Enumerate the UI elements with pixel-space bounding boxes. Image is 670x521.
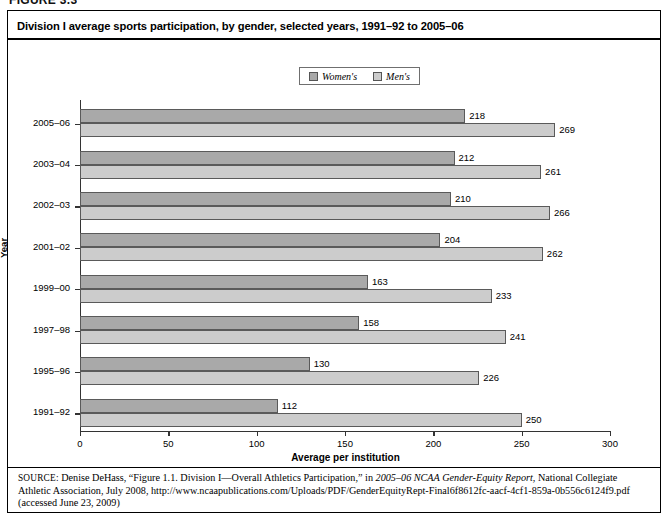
x-axis-tick-mark — [80, 431, 81, 436]
y-axis-tick-mark — [75, 331, 80, 332]
chart-legend: Women's Men's — [299, 67, 420, 85]
legend-item-womens: Women's — [309, 71, 357, 82]
y-axis-tick-mark — [75, 372, 80, 373]
bar-mens — [80, 330, 506, 344]
bar-value-label: 226 — [483, 371, 499, 385]
legend-swatch-icon-womens — [309, 72, 318, 81]
bar-womens — [80, 399, 278, 413]
x-axis-tick-label: 150 — [337, 438, 353, 449]
legend-item-mens: Men's — [373, 71, 410, 82]
bar-mens — [80, 165, 541, 179]
bar-value-label: 130 — [314, 357, 330, 371]
bar-group: 212261 — [80, 141, 610, 182]
bar-mens — [80, 123, 555, 137]
bar-value-label: 204 — [444, 233, 460, 247]
bar-womens — [80, 151, 455, 165]
legend-swatch-icon-mens — [373, 72, 382, 81]
legend-label-womens: Women's — [322, 71, 357, 82]
bar-group: 204262 — [80, 224, 610, 265]
y-axis-tick-label: 2003–04 — [0, 158, 70, 169]
bar-group: 158241 — [80, 307, 610, 348]
x-axis-tick-mark — [610, 431, 611, 436]
bar-mens — [80, 206, 550, 220]
x-axis-tick-mark — [433, 431, 434, 436]
y-axis-tick-mark — [75, 124, 80, 125]
bar-value-label: 210 — [455, 192, 471, 206]
x-axis-tick-label: 100 — [249, 438, 265, 449]
y-axis-tick-label: 2005–06 — [0, 117, 70, 128]
x-axis-tick-label: 300 — [602, 438, 618, 449]
source-divider — [8, 467, 660, 468]
bar-value-label: 262 — [547, 247, 563, 261]
bar-group: 130226 — [80, 348, 610, 389]
source-report-title: 2005–06 NCAA Gender-Equity Report — [376, 472, 533, 483]
bar-womens — [80, 275, 368, 289]
bar-value-label: 250 — [526, 413, 542, 427]
x-axis-tick-mark — [522, 431, 523, 436]
bar-group: 210266 — [80, 183, 610, 224]
y-axis-tick-mark — [75, 248, 80, 249]
bar-group: 218269 — [80, 100, 610, 141]
figure-number-label: FIGURE 3.3 — [9, 0, 77, 5]
chart-title: Division I average sports participation,… — [17, 20, 637, 32]
y-axis-tick-label: 1997–98 — [0, 324, 70, 335]
bar-value-label: 261 — [545, 165, 561, 179]
bar-group: 112250 — [80, 390, 610, 431]
bar-value-label: 158 — [363, 316, 379, 330]
x-axis-tick-mark — [257, 431, 258, 436]
x-axis-tick-label: 200 — [425, 438, 441, 449]
bar-womens — [80, 357, 310, 371]
x-axis-tick-mark — [345, 431, 346, 436]
y-axis-title: Year — [0, 238, 9, 258]
y-axis-tick-mark — [75, 165, 80, 166]
bar-value-label: 269 — [559, 123, 575, 137]
bar-womens — [80, 109, 465, 123]
bar-value-label: 212 — [459, 151, 475, 165]
bar-womens — [80, 233, 440, 247]
legend-label-mens: Men's — [386, 71, 410, 82]
bar-value-label: 266 — [554, 206, 570, 220]
bar-mens — [80, 371, 479, 385]
y-axis-tick-label: 2002–03 — [0, 199, 70, 210]
figure-container: FIGURE 3.3 Division I average sports par… — [0, 0, 670, 521]
bar-value-label: 218 — [469, 109, 485, 123]
y-axis-tick-label: 1991–92 — [0, 406, 70, 417]
x-axis-tick-label: 50 — [163, 438, 174, 449]
bar-group: 163233 — [80, 266, 610, 307]
bar-value-label: 163 — [372, 275, 388, 289]
bar-value-label: 233 — [496, 289, 512, 303]
x-axis-title: Average per institution — [80, 452, 611, 463]
plot-area: 2182692122612102662042621632331582411302… — [80, 100, 610, 430]
bar-mens — [80, 247, 543, 261]
bar-mens — [80, 289, 492, 303]
bar-value-label: 112 — [282, 399, 297, 413]
source-label: SOURCE: — [18, 473, 59, 483]
x-axis-tick-label: 250 — [514, 438, 530, 449]
y-axis-tick-label: 1999–00 — [0, 282, 70, 293]
y-axis-tick-mark — [75, 206, 80, 207]
y-axis-tick-label: 1995–96 — [0, 365, 70, 376]
y-axis-tick-mark — [75, 413, 80, 414]
bar-womens — [80, 316, 359, 330]
source-note: SOURCE: Denise DeHass, “Figure 1.1. Divi… — [18, 472, 652, 510]
y-axis-tick-label: 2001–02 — [0, 241, 70, 252]
bar-womens — [80, 192, 451, 206]
bar-value-label: 241 — [510, 330, 526, 344]
x-axis-tick-mark — [168, 431, 169, 436]
x-axis-tick-label: 0 — [77, 438, 82, 449]
title-divider — [8, 38, 660, 40]
y-axis-tick-mark — [75, 289, 80, 290]
bar-mens — [80, 413, 522, 427]
source-text-1: Denise DeHass, “Figure 1.1. Division I—O… — [59, 472, 376, 483]
